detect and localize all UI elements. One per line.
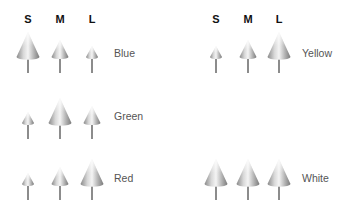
cone-on-stem-icon bbox=[210, 46, 222, 73]
cone-on-stem-icon bbox=[52, 40, 69, 73]
cone-on-stem-icon bbox=[268, 32, 291, 73]
cone-on-stem-icon bbox=[240, 40, 257, 73]
cone-on-stem-icon bbox=[205, 159, 228, 200]
cones-layer bbox=[0, 0, 341, 210]
cone-on-stem-icon bbox=[22, 112, 34, 139]
cone-on-stem-icon bbox=[17, 32, 40, 73]
cone-on-stem-icon bbox=[86, 46, 98, 73]
cone-on-stem-icon bbox=[237, 159, 260, 200]
cone-on-stem-icon bbox=[49, 98, 72, 139]
cone-on-stem-icon bbox=[84, 106, 101, 139]
cone-on-stem-icon bbox=[22, 173, 34, 200]
cone-on-stem-icon bbox=[81, 159, 104, 200]
cone-on-stem-icon bbox=[52, 167, 69, 200]
cone-on-stem-icon bbox=[268, 159, 291, 200]
